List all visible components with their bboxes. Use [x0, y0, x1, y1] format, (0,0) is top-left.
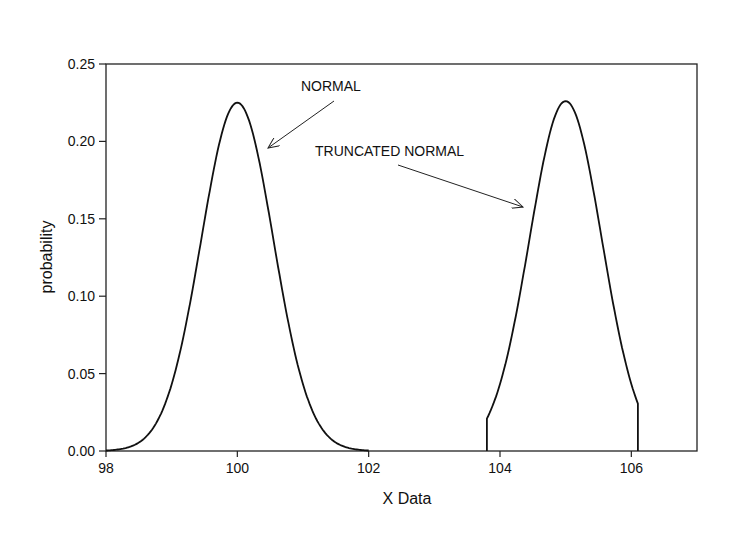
x-axis-label: X Data: [383, 490, 432, 507]
truncated-normal-curve: [487, 101, 638, 451]
annotation-truncated-normal-arrow: [398, 165, 523, 207]
plot-frame: [106, 64, 697, 451]
y-tick-label: 0.15: [68, 211, 95, 227]
x-tick-label: 98: [98, 460, 114, 476]
annotations: NORMALTRUNCATED NORMAL: [268, 78, 523, 207]
x-tick-label: 100: [226, 460, 250, 476]
x-tick-label: 102: [357, 460, 381, 476]
x-axis: 98100102104106: [98, 451, 643, 476]
y-tick-label: 0.00: [68, 443, 95, 459]
chart: 0.000.050.100.150.200.25 98100102104106 …: [0, 0, 734, 541]
y-axis-label: probability: [38, 221, 55, 294]
y-tick-label: 0.10: [68, 288, 95, 304]
y-tick-label: 0.25: [68, 56, 95, 72]
y-tick-label: 0.05: [68, 366, 95, 382]
y-axis: 0.000.050.100.150.200.25: [68, 56, 106, 459]
annotation-normal-arrow: [268, 101, 334, 148]
x-tick-label: 106: [620, 460, 644, 476]
x-tick-label: 104: [488, 460, 512, 476]
y-tick-label: 0.20: [68, 133, 95, 149]
annotation-truncated-normal: TRUNCATED NORMAL: [315, 143, 464, 159]
annotation-normal: NORMAL: [301, 78, 361, 94]
